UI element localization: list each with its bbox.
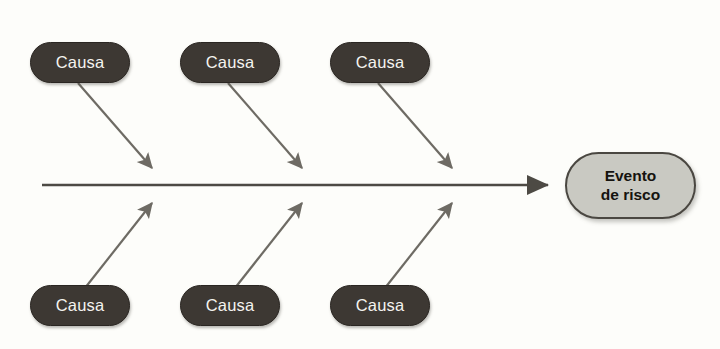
branch-arrow-top-1 [78,83,152,168]
cause-node-bottom-2[interactable]: Causa [180,285,280,326]
branch-arrow-top-2 [228,83,302,168]
branch-arrow-top-3 [378,83,452,168]
branch-arrow-bottom-1 [85,203,152,288]
cause-label: Causa [56,297,105,314]
cause-node-bottom-3[interactable]: Causa [330,285,430,326]
cause-label: Causa [356,54,405,71]
cause-label: Causa [356,297,405,314]
branch-arrow-bottom-3 [385,203,452,288]
cause-label: Causa [206,297,255,314]
effect-node-risk-event[interactable]: Evento de risco [565,152,696,219]
branch-arrow-bottom-2 [235,203,302,288]
cause-node-bottom-1[interactable]: Causa [30,285,130,326]
cause-node-top-2[interactable]: Causa [180,42,280,83]
cause-node-top-3[interactable]: Causa [330,42,430,83]
effect-label-line-2: de risco [601,186,660,204]
cause-label: Causa [56,54,105,71]
cause-label: Causa [206,54,255,71]
fishbone-diagram: Causa Causa Causa Causa Causa Causa Even… [0,0,720,349]
cause-node-top-1[interactable]: Causa [30,42,130,83]
effect-label-line-1: Evento [605,167,657,185]
